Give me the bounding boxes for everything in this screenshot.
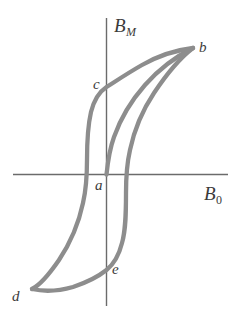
point-label-e: e [112, 262, 119, 277]
hysteresis-figure: BM B0 a b c d e [0, 0, 243, 321]
vertical-axis-label-base: B [114, 15, 126, 36]
horizontal-axis-label-subscript: 0 [216, 193, 222, 207]
vertical-axis-label-subscript: M [126, 25, 136, 39]
horizontal-axis-label: B0 [204, 184, 222, 203]
point-label-c: c [93, 77, 100, 92]
horizontal-axis-label-base: B [204, 183, 216, 204]
descending-branch-curve [32, 48, 193, 289]
point-label-a: a [95, 178, 103, 193]
point-label-d: d [12, 289, 20, 304]
initial-magnetization-curve [107, 48, 194, 175]
vertical-axis-label: BM [114, 16, 136, 35]
point-label-b: b [199, 40, 207, 55]
